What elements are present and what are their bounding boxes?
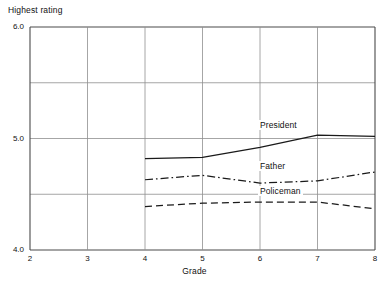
y-tick-label: 5.0 xyxy=(0,134,24,143)
y-tick-label: 4.0 xyxy=(0,245,24,254)
y-tick-label: 6.0 xyxy=(0,22,24,31)
x-tick-label: 7 xyxy=(308,254,328,263)
series-label-president: President xyxy=(258,120,299,130)
plot-area xyxy=(0,0,389,288)
x-tick-label: 5 xyxy=(193,254,213,263)
x-tick-label: 2 xyxy=(20,254,40,263)
x-tick-label: 8 xyxy=(365,254,385,263)
x-tick-label: 4 xyxy=(135,254,155,263)
x-tick-label: 6 xyxy=(250,254,270,263)
chart-container: Highest rating Grade 6.05.04.02345678 Pr… xyxy=(0,0,389,288)
series-label-policeman: Policeman xyxy=(258,186,303,196)
x-tick-label: 3 xyxy=(78,254,98,263)
series-label-father: Father xyxy=(258,161,287,171)
